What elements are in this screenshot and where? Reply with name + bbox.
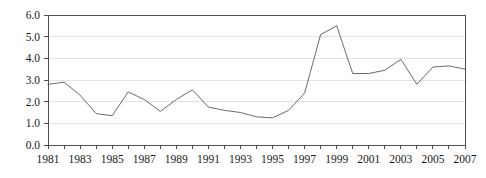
x-tick-label: 1999 [325,153,348,165]
y-tick-label: 4.0 [26,52,41,64]
x-tick-label: 1995 [261,153,284,165]
y-tick-label: 6.0 [26,9,41,21]
y-tick-label: 3.0 [26,74,41,86]
x-tick-label: 2007 [454,153,477,165]
x-tick-label: 1985 [101,153,124,165]
x-tick-label: 1991 [197,153,220,165]
x-tick-label: 1993 [229,153,252,165]
x-tick-label: 2005 [421,153,444,165]
x-tick-label: 1981 [37,153,60,165]
x-tick-label: 2003 [389,153,412,165]
x-tick-label: 1989 [165,153,188,165]
x-tick-label: 1997 [293,153,316,165]
x-tick-label: 1987 [133,153,156,165]
y-tick-label: 1.0 [26,117,41,129]
y-tick-label: 0.0 [26,139,41,151]
line-chart: 0.01.02.03.04.05.06.0 198119831985198719… [0,0,486,178]
chart-container: 0.01.02.03.04.05.06.0 198119831985198719… [0,0,486,178]
y-tick-label: 2.0 [26,96,41,108]
x-tick-label: 2001 [357,153,380,165]
x-tick-label: 1983 [69,153,92,165]
y-tick-label: 5.0 [26,31,41,43]
